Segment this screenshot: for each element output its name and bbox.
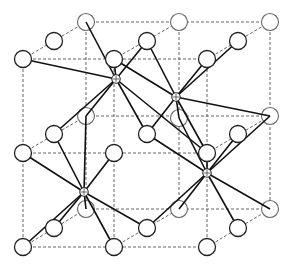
bond-line <box>23 153 84 192</box>
anion-atom <box>106 51 123 68</box>
anion-atom <box>15 239 32 256</box>
anion-atom <box>15 51 32 68</box>
anion-atom <box>15 145 32 162</box>
bond-line <box>116 79 147 134</box>
anion-atom <box>139 126 156 143</box>
cation-atom <box>112 75 120 83</box>
front-anions <box>15 33 247 256</box>
anion-atom <box>262 14 279 31</box>
cation-atom <box>80 188 88 196</box>
bond-line <box>179 173 207 209</box>
cation-atom <box>203 169 211 177</box>
anion-atom <box>46 33 63 50</box>
anion-atom <box>106 145 123 162</box>
anion-atom <box>46 220 63 237</box>
anion-atom <box>230 220 247 237</box>
bond-line <box>84 116 86 192</box>
crystal-structure-diagram <box>0 0 290 271</box>
anion-atom <box>106 239 123 256</box>
bond-line <box>86 79 116 116</box>
anion-atom <box>230 33 247 50</box>
anion-atom <box>199 51 216 68</box>
anion-atom <box>46 126 63 143</box>
bond-line <box>207 116 270 173</box>
bond-line <box>147 173 207 228</box>
anion-atom <box>139 33 156 50</box>
bond-line <box>176 97 270 116</box>
anion-atom <box>139 220 156 237</box>
bond-line <box>23 59 116 79</box>
anion-atom <box>199 145 216 162</box>
anion-atom <box>230 126 247 143</box>
anion-atom <box>199 239 216 256</box>
cation-atom <box>172 93 180 101</box>
anion-atom <box>171 14 188 31</box>
bond-line <box>176 41 238 97</box>
